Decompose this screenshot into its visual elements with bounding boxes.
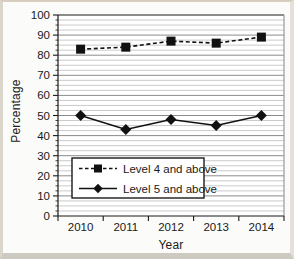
chart-canvas: 0102030405060708090100201020112012201320… — [0, 0, 294, 259]
x-tick-label: 2014 — [249, 221, 275, 233]
y-tick-label: 50 — [37, 110, 50, 122]
y-tick-label: 70 — [37, 69, 50, 81]
y-axis-title: Percentage — [9, 11, 23, 211]
x-tick-label: 2013 — [203, 221, 229, 233]
legend-label: Level 4 and above — [123, 163, 217, 175]
x-tick-label: 2010 — [68, 221, 94, 233]
data-point-square — [76, 45, 85, 54]
y-tick-label: 20 — [37, 170, 50, 182]
legend-label: Level 5 and above — [123, 183, 217, 195]
legend-marker-square — [94, 165, 102, 173]
data-point-square — [212, 39, 221, 48]
data-point-square — [257, 33, 266, 42]
scanned-figure: 0102030405060708090100201020112012201320… — [0, 0, 294, 259]
data-point-square — [121, 43, 130, 52]
y-tick-label: 0 — [44, 210, 50, 222]
x-tick-label: 2011 — [113, 221, 138, 233]
y-tick-label: 30 — [37, 150, 50, 162]
y-tick-label: 100 — [31, 9, 50, 21]
y-tick-label: 80 — [37, 49, 50, 61]
y-tick-label: 40 — [37, 130, 50, 142]
y-tick-label: 90 — [37, 29, 50, 41]
x-tick-label: 2012 — [158, 221, 184, 233]
y-tick-label: 10 — [37, 190, 50, 202]
x-axis-title: Year — [58, 238, 284, 252]
y-tick-label: 60 — [37, 89, 50, 101]
data-point-square — [167, 37, 176, 46]
